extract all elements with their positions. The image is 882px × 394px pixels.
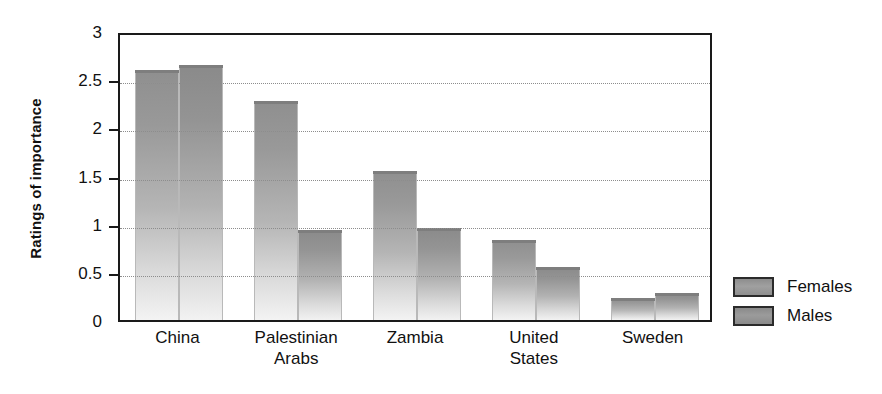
y-axis-tick bbox=[109, 178, 118, 180]
gridline bbox=[120, 131, 710, 132]
bar-cap bbox=[655, 293, 699, 296]
bar-females-china bbox=[135, 70, 179, 320]
legend-swatch-males bbox=[733, 306, 774, 326]
y-axis-tick-label: 1 bbox=[42, 216, 102, 236]
bar-females-palestinian-arabs bbox=[254, 101, 298, 320]
y-axis-tick-label: 3 bbox=[42, 23, 102, 43]
bar-cap bbox=[373, 171, 417, 174]
bar-cap bbox=[298, 230, 342, 233]
y-axis-tick bbox=[109, 226, 118, 228]
bar-males-zambia bbox=[417, 228, 461, 320]
bars-layer bbox=[120, 35, 710, 320]
bar-cap bbox=[536, 267, 580, 270]
bar-cap bbox=[611, 298, 655, 301]
y-axis-title: Ratings of importance bbox=[27, 49, 44, 309]
bar-females-sweden bbox=[611, 298, 655, 320]
y-axis-tick bbox=[109, 129, 118, 131]
legend: Females Males bbox=[733, 272, 873, 330]
y-axis-tick bbox=[109, 81, 118, 83]
bar-cap bbox=[254, 101, 298, 104]
bar-males-china bbox=[179, 65, 223, 320]
y-axis-tick-label: 0 bbox=[42, 312, 102, 332]
bar-females-zambia bbox=[373, 171, 417, 320]
bar-females-united-states bbox=[492, 240, 536, 320]
legend-label-females: Females bbox=[787, 277, 852, 297]
bar-males-sweden bbox=[655, 293, 699, 320]
gridline bbox=[120, 83, 710, 84]
x-axis-label-line: Arabs bbox=[216, 348, 376, 369]
x-axis-label-line: States bbox=[454, 348, 614, 369]
y-axis-tick-label: 2 bbox=[42, 119, 102, 139]
bar-cap bbox=[179, 65, 223, 68]
plot-area bbox=[118, 33, 712, 322]
y-axis-tick-label: 0.5 bbox=[42, 264, 102, 284]
bar-cap bbox=[417, 228, 461, 231]
y-axis-tick-label: 1.5 bbox=[42, 168, 102, 188]
gridline bbox=[120, 180, 710, 181]
y-axis-tick-label: 2.5 bbox=[42, 71, 102, 91]
bar-cap bbox=[492, 240, 536, 243]
x-axis-label-line: Sweden bbox=[573, 327, 733, 348]
legend-label-males: Males bbox=[787, 306, 832, 326]
x-axis-label-sweden: Sweden bbox=[573, 327, 733, 348]
legend-swatch-females bbox=[733, 277, 774, 297]
legend-item-males[interactable]: Males bbox=[733, 301, 873, 330]
gridline bbox=[120, 276, 710, 277]
legend-item-females[interactable]: Females bbox=[733, 272, 873, 301]
gridline bbox=[120, 228, 710, 229]
y-axis-tick bbox=[109, 274, 118, 276]
bar-chart: Ratings of importance 00.511.522.53 Chin… bbox=[0, 0, 882, 394]
bar-cap bbox=[135, 70, 179, 73]
